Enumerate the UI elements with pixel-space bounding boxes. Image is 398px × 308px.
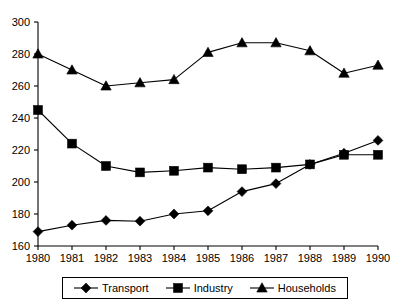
x-tick-label: 1981 — [60, 252, 84, 264]
data-point-marker — [33, 49, 43, 58]
data-point-marker — [237, 38, 247, 47]
y-tick-label: 180 — [12, 208, 30, 220]
y-tick-label: 220 — [12, 144, 30, 156]
legend-item-households[interactable]: Households — [250, 282, 336, 294]
data-point-marker — [271, 179, 281, 189]
legend-item-label: Transport — [102, 283, 149, 294]
data-point-marker — [373, 136, 383, 146]
y-axis-tick-labels: 160180200220240260280300 — [12, 16, 30, 252]
y-tick-label: 160 — [12, 240, 30, 252]
data-point-marker — [68, 139, 77, 148]
x-tick-label: 1984 — [162, 252, 186, 264]
diamond-marker-icon — [74, 282, 98, 294]
data-point-marker — [373, 60, 383, 69]
data-point-marker — [238, 165, 247, 174]
square-marker-icon — [166, 282, 190, 294]
y-tick-label: 260 — [12, 80, 30, 92]
series-line — [38, 140, 378, 231]
y-tick-label: 300 — [12, 16, 30, 28]
chart-plot-area: 160180200220240260280300 198019811982198… — [0, 0, 398, 308]
data-point-marker — [204, 163, 213, 172]
y-tick-label: 200 — [12, 176, 30, 188]
y-tick-label: 280 — [12, 48, 30, 60]
x-tick-label: 1983 — [128, 252, 152, 264]
x-tick-label: 1980 — [26, 252, 50, 264]
data-point-marker — [102, 162, 111, 171]
triangle-marker-icon — [250, 282, 274, 294]
data-point-marker — [340, 150, 349, 159]
data-point-marker — [169, 74, 179, 83]
data-point-marker — [135, 216, 145, 226]
y-tick-label: 240 — [12, 112, 30, 124]
data-point-marker — [169, 209, 179, 219]
x-axis-ticks — [38, 246, 378, 250]
data-point-marker — [271, 38, 281, 47]
x-tick-label: 1989 — [332, 252, 356, 264]
line-chart: 160180200220240260280300 198019811982198… — [0, 0, 398, 308]
series-industry — [34, 106, 383, 177]
x-tick-label: 1987 — [264, 252, 288, 264]
data-point-marker — [33, 227, 43, 237]
data-point-marker — [34, 106, 43, 115]
data-point-marker — [374, 150, 383, 159]
x-tick-label: 1988 — [298, 252, 322, 264]
data-point-marker — [170, 166, 179, 175]
x-tick-label: 1986 — [230, 252, 254, 264]
x-tick-label: 1990 — [366, 252, 390, 264]
data-point-marker — [101, 216, 111, 226]
data-point-marker — [67, 220, 77, 230]
data-point-marker — [136, 168, 145, 177]
data-point-marker — [306, 160, 315, 169]
data-point-marker — [237, 187, 247, 197]
x-tick-label: 1985 — [196, 252, 220, 264]
x-tick-label: 1982 — [94, 252, 118, 264]
legend-item-transport[interactable]: Transport — [74, 282, 149, 294]
legend-item-label: Industry — [194, 283, 233, 294]
data-point-marker — [67, 65, 77, 74]
x-axis-tick-labels: 1980198119821983198419851986198719881989… — [26, 252, 390, 264]
legend-item-industry[interactable]: Industry — [166, 282, 233, 294]
series-households — [33, 38, 383, 90]
legend-item-label: Households — [278, 283, 336, 294]
data-point-marker — [203, 206, 213, 216]
chart-legend: TransportIndustryHouseholds — [62, 277, 348, 299]
data-point-marker — [272, 163, 281, 172]
series-transport — [33, 136, 383, 237]
data-series-layer — [33, 38, 383, 237]
